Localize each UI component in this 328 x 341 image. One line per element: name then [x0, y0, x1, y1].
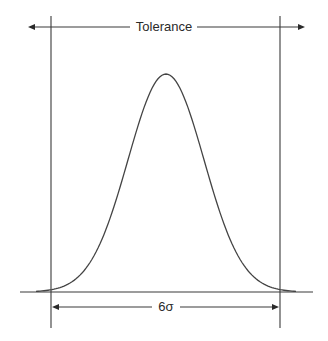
tolerance-right-arrowhead-icon — [298, 24, 305, 30]
tolerance-diagram: Tolerance 6σ — [0, 0, 328, 341]
sigma-right-arrowhead-icon — [272, 304, 279, 310]
sigma-left-arrowhead-icon — [52, 304, 59, 310]
tolerance-label: Tolerance — [136, 19, 192, 34]
sigma-label: 6σ — [158, 299, 173, 314]
bell-curve — [36, 74, 296, 291]
tolerance-left-arrowhead-icon — [28, 24, 35, 30]
